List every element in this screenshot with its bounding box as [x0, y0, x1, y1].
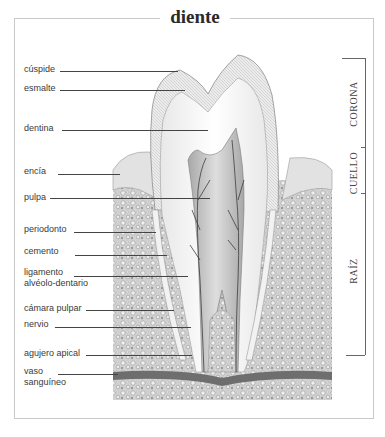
- label-esmalte: esmalte: [24, 83, 56, 94]
- bracket-tick-cuello-raiz: [361, 193, 365, 194]
- label-ligamento-line1: ligamento: [24, 267, 63, 277]
- leader-line-ligamento: [74, 276, 188, 277]
- label-encia: encía: [24, 166, 46, 177]
- leader-line-dentina: [62, 130, 208, 131]
- label-ligamento-line2: alvéolo-dentario: [24, 278, 88, 288]
- leader-line-periodonto: [74, 232, 156, 233]
- leader-line-encia: [58, 174, 120, 175]
- leader-line-cuspide: [60, 71, 178, 72]
- bracket-bottom-tick: [346, 355, 365, 356]
- label-periodonto: periodonto: [24, 224, 67, 235]
- label-nervio: nervio: [24, 319, 49, 330]
- bracket-tick-corona-cuello: [361, 147, 365, 148]
- leader-line-agujero-apical: [86, 355, 192, 356]
- leader-line-cemento: [75, 255, 167, 256]
- label-vaso-sanguineo: vaso sanguíneo: [24, 366, 66, 388]
- bracket-top-tick: [342, 58, 365, 59]
- label-cemento: cemento: [24, 246, 59, 257]
- section-label-raiz: RAÍZ: [348, 231, 360, 311]
- label-vaso-line1: vaso: [24, 366, 43, 376]
- label-agujero-apical: agujero apical: [24, 348, 80, 359]
- section-bracket-line: [365, 58, 366, 355]
- label-pulpa: pulpa: [24, 192, 46, 203]
- label-cuspide: cúspide: [24, 64, 55, 75]
- label-dentina: dentina: [24, 123, 54, 134]
- leader-line-esmalte: [60, 90, 185, 91]
- diagram-title: diente: [160, 5, 230, 29]
- leader-line-camara-pulpar: [86, 310, 174, 311]
- leader-line-nervio: [55, 327, 191, 328]
- leader-line-pulpa: [50, 198, 210, 199]
- label-ligamento-alveolo-dentario: ligamento alvéolo-dentario: [24, 267, 88, 289]
- section-label-cuello: CUELLO: [348, 133, 360, 213]
- label-vaso-line2: sanguíneo: [24, 377, 66, 387]
- label-camara-pulpar: cámara pulpar: [24, 303, 82, 314]
- section-label-corona: CORONA: [348, 64, 360, 144]
- leader-line-vaso-sanguineo: [58, 374, 118, 375]
